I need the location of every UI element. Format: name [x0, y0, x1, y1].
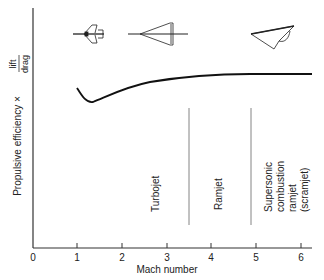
x-tick-labels: 0 1 2 3 4 5 6	[30, 252, 304, 263]
svg-text:lift: lift	[8, 59, 18, 68]
y-axis-label: Propulsive efficiency × lift drag	[8, 55, 30, 196]
fighter-aircraft-icon	[73, 25, 104, 43]
region-label-ramjet: Ramjet	[213, 178, 224, 210]
x-axis-label: Mach number	[136, 264, 198, 275]
svg-text:1: 1	[74, 252, 80, 263]
svg-text:Supersonic: Supersonic	[263, 162, 274, 212]
waverider-icon	[251, 26, 294, 49]
svg-text:3: 3	[164, 252, 170, 263]
svg-text:4: 4	[208, 252, 214, 263]
svg-text:ramjet: ramjet	[287, 184, 298, 212]
svg-text:6: 6	[298, 252, 304, 263]
region-label-scramjet: Supersonic combustion ramjet (scramjet)	[263, 161, 310, 212]
svg-text:(scramjet): (scramjet)	[299, 168, 310, 212]
svg-text:2: 2	[119, 252, 125, 263]
svg-text:drag: drag	[20, 55, 30, 73]
svg-text:5: 5	[253, 252, 259, 263]
svg-text:Propulsive efficiency ×: Propulsive efficiency ×	[12, 96, 23, 196]
svg-text:combustion: combustion	[275, 161, 286, 212]
chart: 0 1 2 3 4 5 6 Mach number Propulsive eff…	[0, 0, 324, 280]
efficiency-curve	[77, 74, 312, 102]
region-label-turbojet: Turbojet	[150, 175, 161, 212]
x-ticks	[77, 243, 301, 248]
svg-text:0: 0	[30, 252, 36, 263]
delta-airliner-icon	[128, 23, 188, 45]
